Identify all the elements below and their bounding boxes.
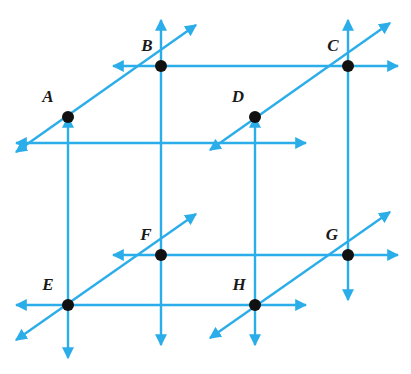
point-group bbox=[62, 60, 354, 311]
point-label-f: F bbox=[139, 225, 152, 244]
point-label-c: C bbox=[327, 36, 339, 55]
point-b bbox=[155, 60, 167, 72]
point-e bbox=[62, 299, 74, 311]
geometry-diagram: ABCDEFGH bbox=[0, 0, 411, 374]
point-a bbox=[62, 111, 74, 123]
point-d bbox=[249, 111, 261, 123]
point-c bbox=[342, 60, 354, 72]
point-g bbox=[342, 249, 354, 261]
point-label-b: B bbox=[140, 36, 152, 55]
point-f bbox=[155, 249, 167, 261]
point-h bbox=[249, 299, 261, 311]
point-label-h: H bbox=[231, 275, 246, 294]
point-label-g: G bbox=[326, 225, 339, 244]
point-label-d: D bbox=[231, 87, 244, 106]
point-label-a: A bbox=[41, 87, 53, 106]
diagram-canvas: ABCDEFGH bbox=[0, 0, 411, 374]
point-label-e: E bbox=[41, 275, 53, 294]
